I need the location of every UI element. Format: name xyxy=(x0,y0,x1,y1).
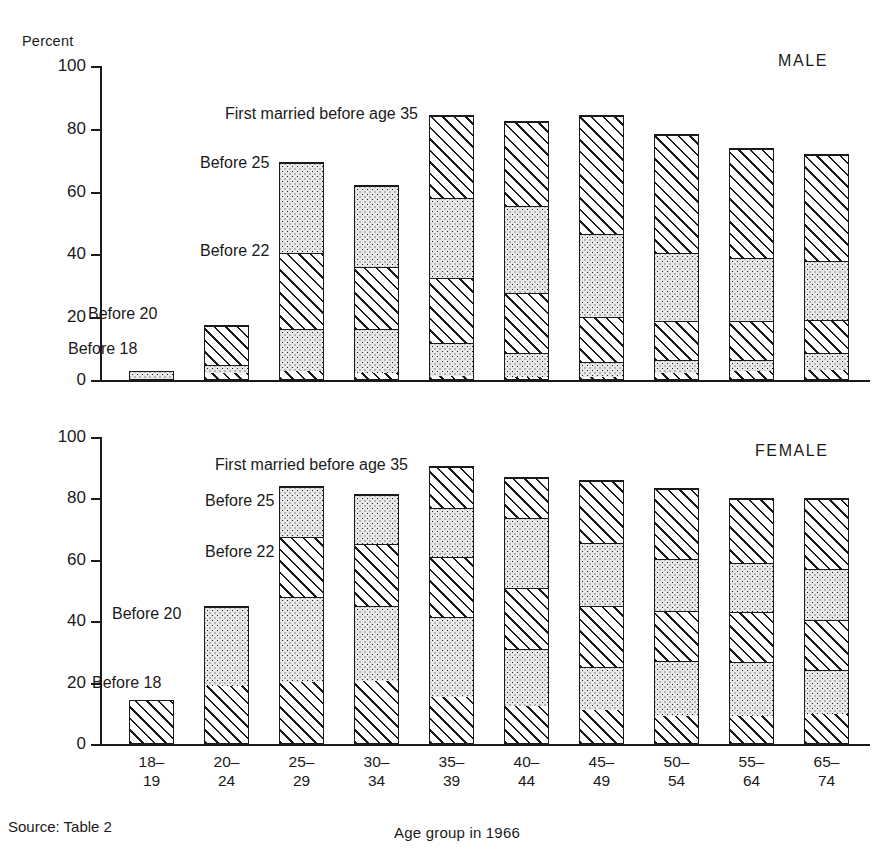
bar-female-18-19[interactable] xyxy=(129,700,174,745)
annotation-before-25-female: Before 25 xyxy=(205,492,274,510)
y-tick-label-male-40: 40 xyxy=(67,244,86,264)
bar-female-25-29[interactable] xyxy=(279,486,324,744)
panel-male: Percent MALE 100 80 60 40 20 0 First mar… xyxy=(0,0,886,400)
bar-segment-20-to-22 xyxy=(580,606,623,667)
bar-segment-before-18 xyxy=(805,714,848,743)
panel-female: FEMALE 100 80 60 40 20 0 First married b… xyxy=(0,400,886,760)
category-label-line2: 39 xyxy=(429,771,474,790)
bar-segment-18-to-20 xyxy=(730,360,773,371)
bar-segment-22-to-25 xyxy=(280,487,323,537)
bar-segment-22-to-25 xyxy=(805,569,848,619)
bar-segment-20-to-22 xyxy=(655,611,698,661)
annotation-before-35-female: First married before age 35 xyxy=(215,456,408,474)
bar-segment-before-18 xyxy=(655,716,698,743)
bar-segment-25-to-35 xyxy=(430,116,473,199)
annotation-before-20-male: Before 20 xyxy=(88,305,157,323)
bar-male-65-74[interactable] xyxy=(804,154,849,380)
bar-segment-20-to-22 xyxy=(655,321,698,360)
bar-male-20-24[interactable] xyxy=(204,325,249,380)
bar-segment-25-to-35 xyxy=(655,489,698,559)
bar-female-40-44[interactable] xyxy=(504,477,549,744)
category-label-50-54: 50–54 xyxy=(654,752,699,812)
y-tick-label-male-80: 80 xyxy=(67,119,86,139)
bar-segment-25-to-35 xyxy=(580,481,623,543)
bar-segment-22-to-25 xyxy=(655,253,698,322)
bar-female-35-39[interactable] xyxy=(429,466,474,744)
annotation-before-25-male: Before 25 xyxy=(200,154,269,172)
bar-segment-18-to-20 xyxy=(355,606,398,681)
bar-segment-22-to-25 xyxy=(355,495,398,544)
bar-male-45-49[interactable] xyxy=(579,115,624,380)
bar-segment-22-to-25 xyxy=(805,261,848,320)
bar-segment-20-to-22 xyxy=(355,267,398,329)
bar-segment-22-to-25 xyxy=(280,163,323,253)
category-label-line1: 35– xyxy=(439,753,465,770)
category-label-30-34: 30–34 xyxy=(354,752,399,812)
bar-segment-before-18 xyxy=(280,371,323,379)
category-label-line1: 40– xyxy=(514,753,540,770)
bar-segment-20-to-22 xyxy=(280,537,323,596)
bar-female-50-54[interactable] xyxy=(654,488,699,744)
category-label-line2: 64 xyxy=(729,771,774,790)
bar-segment-20-to-22 xyxy=(280,253,323,329)
bar-segment-before-18 xyxy=(280,682,323,743)
annotation-before-22-male: Before 22 xyxy=(200,242,269,260)
bar-segment-22-to-25 xyxy=(430,198,473,277)
bar-segment-20-to-22 xyxy=(430,278,473,343)
category-label-line2: 49 xyxy=(579,771,624,790)
bar-female-45-49[interactable] xyxy=(579,480,624,744)
bar-segment-before-18 xyxy=(430,697,473,743)
category-label-line2: 19 xyxy=(129,771,174,790)
category-label-line1: 45– xyxy=(589,753,615,770)
y-tick-label-female-40: 40 xyxy=(67,611,86,631)
bar-segment-20-to-22 xyxy=(430,557,473,616)
bar-male-30-34[interactable] xyxy=(354,185,399,380)
bar-male-40-44[interactable] xyxy=(504,121,549,380)
category-label-line2: 34 xyxy=(354,771,399,790)
bar-segment-25-to-35 xyxy=(730,499,773,563)
bar-segment-22-to-25 xyxy=(505,518,548,588)
bar-segment-18-to-20 xyxy=(580,667,623,710)
category-label-line1: 20– xyxy=(214,753,240,770)
bar-segment-22-to-25 xyxy=(580,543,623,605)
bar-male-50-54[interactable] xyxy=(654,134,699,380)
annotation-before-20-female: Before 20 xyxy=(112,605,181,623)
bar-segment-18-to-20 xyxy=(280,329,323,371)
plot-area-female: 100 80 60 40 20 0 First married before a… xyxy=(100,437,870,744)
bar-female-55-64[interactable] xyxy=(729,498,774,744)
category-label-45-49: 45–49 xyxy=(579,752,624,812)
y-tick-label-male-100: 100 xyxy=(58,56,86,76)
bar-segment-before-18 xyxy=(355,373,398,379)
annotation-before-22-female: Before 22 xyxy=(205,543,274,561)
bar-segment-20-to-22 xyxy=(355,544,398,606)
bar-segment-25-to-35 xyxy=(805,499,848,569)
y-tick-label-female-80: 80 xyxy=(67,488,86,508)
bar-segment-before-18 xyxy=(205,686,248,743)
bar-male-35-39[interactable] xyxy=(429,115,474,380)
bar-segment-18-to-20 xyxy=(280,597,323,682)
bar-female-65-74[interactable] xyxy=(804,498,849,744)
bar-segment-20-to-22 xyxy=(730,321,773,360)
bar-segment-25-to-35 xyxy=(805,155,848,261)
category-label-18-19: 18–19 xyxy=(129,752,174,812)
y-tick-female-0 xyxy=(91,744,102,746)
y-tick-male-0 xyxy=(91,380,102,382)
bar-female-20-24[interactable] xyxy=(204,606,249,744)
category-label-line2: 44 xyxy=(504,771,549,790)
x-axis-title: Age group in 1966 xyxy=(394,824,520,841)
bar-segment-before-18 xyxy=(580,377,623,379)
category-label-35-39: 35–39 xyxy=(429,752,474,812)
bar-segment-22-to-25 xyxy=(430,508,473,557)
bar-segment-22-to-25 xyxy=(580,234,623,317)
bar-male-55-64[interactable] xyxy=(729,148,774,380)
bar-segment-22-to-25 xyxy=(730,258,773,322)
category-label-line1: 65– xyxy=(814,753,840,770)
bar-male-18-19[interactable] xyxy=(129,371,174,380)
x-axis-line-female xyxy=(100,744,870,746)
y-tick-label-male-20: 20 xyxy=(67,307,86,327)
bar-segment-before-18 xyxy=(505,377,548,379)
bar-male-25-29[interactable] xyxy=(279,162,324,380)
bar-segment-before-18 xyxy=(130,701,173,744)
bar-segment-18-to-20 xyxy=(805,670,848,714)
bar-female-30-34[interactable] xyxy=(354,494,399,744)
